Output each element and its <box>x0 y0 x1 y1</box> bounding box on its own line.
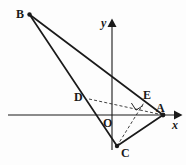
point-label-E: E <box>143 89 151 101</box>
y-axis-label: y <box>101 17 106 29</box>
geometry-figure: B A C D E O x y <box>0 0 186 165</box>
segment-CA <box>117 115 163 146</box>
x-axis-label: x <box>172 119 178 131</box>
point-label-C: C <box>121 147 130 159</box>
point-label-B: B <box>16 8 24 20</box>
point-label-D: D <box>74 91 83 103</box>
vertex-dot-B <box>27 12 31 16</box>
y-axis-arrowhead <box>108 19 117 28</box>
point-label-A: A <box>156 102 165 114</box>
geometry-canvas <box>0 0 186 165</box>
vertex-dot-C <box>115 144 119 148</box>
origin-label: O <box>103 117 112 129</box>
triangle-group <box>30 15 164 147</box>
right-angle-mark <box>131 103 143 110</box>
axes-group <box>8 19 183 151</box>
